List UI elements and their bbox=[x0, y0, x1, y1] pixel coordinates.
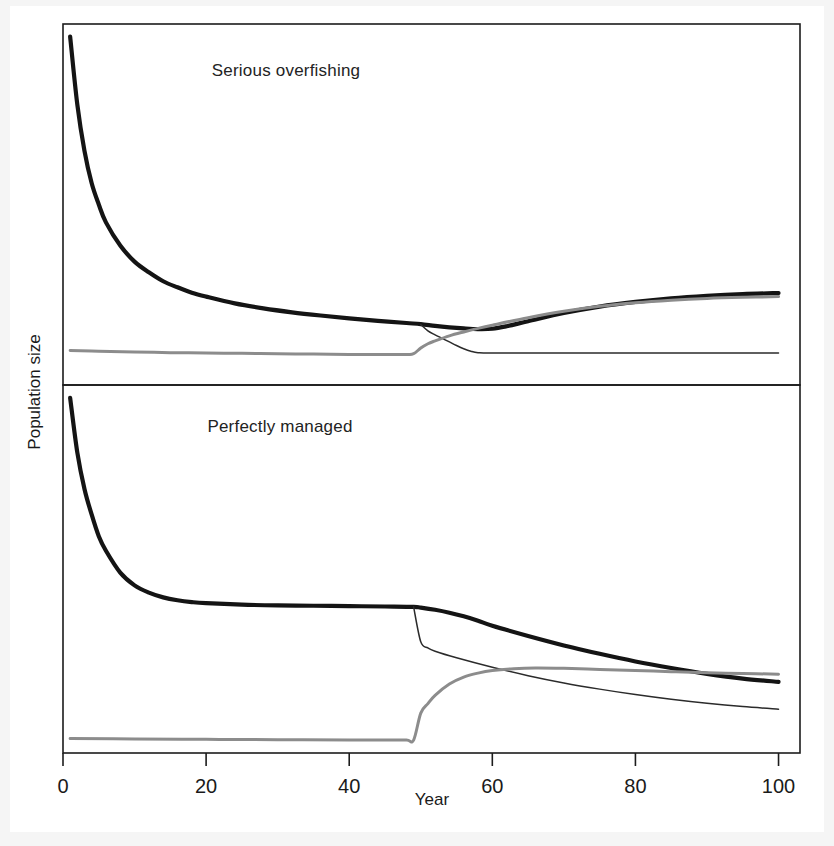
panel-series-serious-overfishing bbox=[70, 37, 778, 355]
y-axis-title: Population size bbox=[25, 334, 44, 449]
series-perfectly-managed-total-population bbox=[70, 398, 778, 682]
series-layer bbox=[70, 37, 778, 742]
panel-series-perfectly-managed bbox=[70, 398, 778, 742]
x-tick-label: 0 bbox=[57, 775, 68, 797]
series-serious-overfishing-total-population bbox=[70, 37, 778, 329]
x-tick-label: 80 bbox=[624, 775, 646, 797]
figure-canvas: Serious overfishing Perfectly managed 02… bbox=[0, 0, 834, 846]
panel-title-top: Serious overfishing bbox=[212, 61, 360, 80]
series-perfectly-managed-recruits-juveniles bbox=[70, 668, 778, 742]
x-tick-label: 100 bbox=[762, 775, 795, 797]
chart-svg: Serious overfishing Perfectly managed 02… bbox=[0, 0, 834, 846]
x-tick-label: 40 bbox=[338, 775, 360, 797]
series-perfectly-managed-mature-adults bbox=[414, 607, 779, 709]
x-axis-title: Year bbox=[415, 790, 450, 809]
panel-title-bottom: Perfectly managed bbox=[207, 417, 352, 436]
panel-frame-top bbox=[63, 24, 800, 385]
x-tick-label: 60 bbox=[481, 775, 503, 797]
x-tick-label: 20 bbox=[195, 775, 217, 797]
